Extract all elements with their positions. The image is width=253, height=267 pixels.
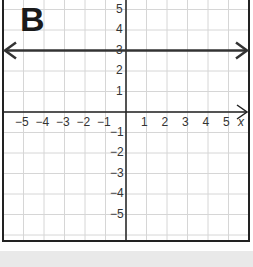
x-tick-label: 3 [182, 116, 189, 128]
x-tick-label: −1 [97, 116, 111, 128]
y-tick-label: −2 [110, 146, 124, 158]
y-tick-label: −1 [110, 126, 124, 138]
x-tick-label: 4 [203, 116, 210, 128]
x-tick-label: −2 [77, 116, 91, 128]
y-tick-label: 3 [116, 44, 123, 56]
x-tick-label: 5 [223, 116, 230, 128]
y-tick-label: 4 [116, 23, 123, 35]
x-tick-label: −4 [36, 116, 50, 128]
y-tick-label: 2 [116, 64, 123, 76]
x-axis-label: x [238, 116, 244, 128]
y-tick-label: −4 [110, 187, 124, 199]
panel-label: B [20, 2, 45, 36]
coordinate-plane [0, 0, 253, 267]
y-tick-label: 5 [116, 3, 123, 15]
y-tick-label: 1 [116, 85, 123, 97]
y-tick-label: −5 [110, 208, 124, 220]
y-tick-label: −3 [110, 167, 124, 179]
x-tick-label: −3 [56, 116, 70, 128]
x-tick-label: −5 [15, 116, 29, 128]
x-tick-label: 2 [162, 116, 169, 128]
x-tick-label: 1 [141, 116, 148, 128]
